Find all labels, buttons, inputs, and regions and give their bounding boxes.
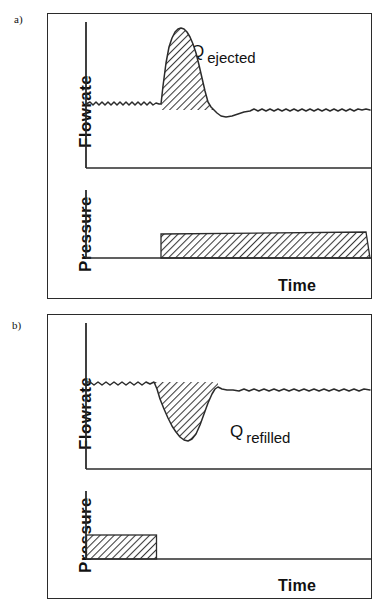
panel-b-pressure-chart — [84, 487, 372, 567]
panel-b-flowrate-chart — [84, 319, 372, 475]
panel-b-flowrate-trace — [86, 382, 370, 441]
panel-b: b) Flowrate Pressure Time Qrefilled — [0, 305, 382, 605]
panel-b-refilled-area — [154, 382, 218, 441]
panel-a-flowrate-chart — [84, 18, 372, 174]
panel-a-pressure-chart — [84, 186, 372, 266]
figure-root: a) Flowrate Pressure Time Qejected — [0, 0, 382, 605]
panel-b-pressure-block — [87, 535, 157, 559]
panel-a-flowrate-trace — [86, 28, 370, 117]
panel-a-time-axis-label: Time — [278, 277, 316, 295]
panel-b-label: b) — [12, 320, 21, 331]
panel-b-time-axis-label: Time — [278, 577, 316, 595]
panel-a-pressure-block — [161, 232, 370, 258]
panel-a: a) Flowrate Pressure Time Qejected — [0, 0, 382, 305]
panel-a-ejected-area — [161, 28, 213, 110]
panel-a-label: a) — [14, 14, 23, 25]
